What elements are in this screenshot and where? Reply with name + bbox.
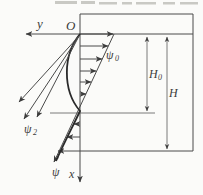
psi0-label: ψ [106,48,114,62]
figure-canvas: y O ψ 0 H 0 H ψ 2 ψ x [0,0,203,195]
ray-2 [24,36,79,119]
psi2-label: ψ [24,122,32,136]
h-label: H [168,86,179,100]
h0-label-subscript: 0 [158,73,162,82]
cropped-text-artifact [55,1,198,5]
x-axis-label: x [68,167,75,181]
psi0-label-subscript: 0 [115,54,119,63]
psi2-label-subscript: 2 [33,128,37,137]
ray-arrows [19,36,79,119]
y-axis-label: y [35,16,43,31]
ray-psi2 [37,36,79,117]
diagram-svg: y O ψ 0 H 0 H ψ 2 ψ x [0,0,203,195]
origin-label: O [66,18,76,33]
velocity-arrows-right [80,46,108,94]
psi-label: ψ [52,165,60,179]
